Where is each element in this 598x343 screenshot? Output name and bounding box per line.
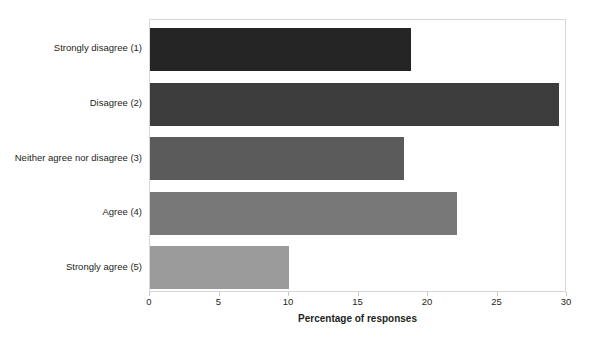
x-axis-tick-label: 25: [477, 296, 517, 307]
bar-neither: [150, 137, 404, 180]
bar-row: [150, 246, 289, 289]
bar-agree: [150, 192, 457, 235]
bar-row: [150, 83, 559, 126]
plot-area: [149, 19, 566, 292]
x-axis-tick-label: 10: [268, 296, 308, 307]
bar-strongly-disagree: [150, 28, 411, 71]
y-axis-label-4: Agree (4): [0, 206, 142, 217]
x-axis-title: Percentage of responses: [149, 313, 566, 324]
bar-chart-figure: Strongly disagree (1) Disagree (2) Neith…: [0, 0, 598, 343]
bar-disagree: [150, 83, 559, 126]
x-axis-tick-label: 20: [407, 296, 447, 307]
bar-row: [150, 28, 411, 71]
chart-title: [149, 0, 566, 1]
y-axis-label-2: Disagree (2): [0, 97, 142, 108]
bar-strongly-agree: [150, 246, 289, 289]
y-axis-label-5: Strongly agree (5): [0, 261, 142, 272]
bar-row: [150, 137, 404, 180]
x-axis-tick-label: 15: [338, 296, 378, 307]
y-axis-label-3: Neither agree nor disagree (3): [0, 152, 142, 163]
x-axis-tick-label: 0: [129, 296, 169, 307]
y-axis-label-1: Strongly disagree (1): [0, 42, 142, 53]
bar-row: [150, 192, 457, 235]
x-axis-tick-label: 5: [199, 296, 239, 307]
x-axis-tick-label: 30: [546, 296, 586, 307]
